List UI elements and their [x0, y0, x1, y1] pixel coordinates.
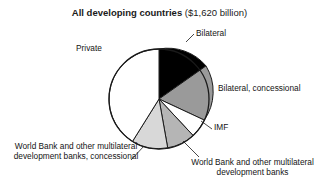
leader-line-bilateral	[186, 34, 194, 42]
pie-chart-figure: All developing countries ($1,620 billion…	[0, 0, 319, 192]
leader-line-world-bank-multilateral	[183, 141, 199, 157]
pie-label-bilateral-concessional: Bilateral, concessional	[218, 84, 301, 94]
leader-line-imf	[201, 121, 212, 129]
pie-label-world-bank-multilateral: World Bank and other multilateral develo…	[186, 158, 319, 177]
pie-label-world-bank-multilateral-concessional: World Bank and other multilateral develo…	[2, 142, 150, 161]
pie-label-private: Private	[76, 44, 102, 54]
pie-label-bilateral: Bilateral	[196, 29, 226, 39]
pie-label-imf: IMF	[214, 123, 228, 133]
